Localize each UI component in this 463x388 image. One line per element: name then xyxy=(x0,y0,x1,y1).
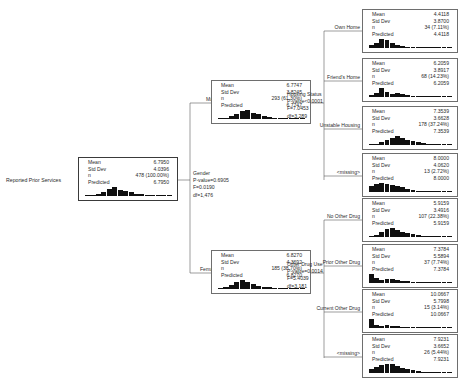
stat-key-mean: Mean xyxy=(365,200,404,207)
drug-missing-mean-value: 7.9231 xyxy=(408,336,455,343)
node-current-other-drug-stats: Mean 10.0667 Std Dev 5.7998 n 15 (3.14%)… xyxy=(365,291,455,318)
own-home-predicted-value: 4.4118 xyxy=(408,31,455,38)
unstable-housing-n-value: 178 (37.24%) xyxy=(404,121,455,128)
housing-missing-histogram xyxy=(369,183,452,192)
split-housing-status: Housing Status P-value<0.0001 F=7.0453 d… xyxy=(287,91,323,120)
node-drug-missing-stats: Mean 7.9231 Std Dev 3.6652 n 26 (5.44%) … xyxy=(365,336,455,363)
stat-key-n: n xyxy=(365,121,404,128)
friends-home-predicted-value: 6.2059 xyxy=(406,80,455,87)
stat-key-n: n xyxy=(365,349,408,356)
split-drug-pvalue: P-value=0.0014 xyxy=(287,268,323,275)
stat-key-mean: Mean xyxy=(365,246,408,253)
branch-label-current-other-drug: Current Other Drug xyxy=(302,306,360,312)
stat-key-predicted: Predicted xyxy=(214,272,255,279)
split-housing-statistic: F=7.0453 xyxy=(287,105,323,112)
node-prior-other-drug[interactable]: Mean 7.3784 Std Dev 5.5894 n 37 (7.74%) … xyxy=(362,244,458,288)
friends-home-stddev-value: 3.8917 xyxy=(406,67,455,74)
node-prior-other-drug-stats: Mean 7.3784 Std Dev 5.5894 n 37 (7.74%) … xyxy=(365,246,455,273)
node-unstable-housing-stats: Mean 7.3539 Std Dev 3.6628 n 178 (37.24%… xyxy=(365,108,455,135)
branch-label-own-home: Own Home xyxy=(326,25,360,31)
node-own-home[interactable]: Mean 4.4118 Std Dev 3.8700 n 34 (7.11%) … xyxy=(362,9,458,53)
node-own-home-stats: Mean 4.4118 Std Dev 3.8700 n 34 (7.11%) … xyxy=(365,11,455,38)
branch-label-prior-other-drug: Prior Other Drug xyxy=(310,260,360,266)
drug-missing-predicted-value: 7.9231 xyxy=(408,356,455,363)
stat-key-stddev: Std Dev xyxy=(365,162,408,169)
root-mean-value: 6.7950 xyxy=(120,159,175,166)
split-housing-pvalue: P-value<0.0001 xyxy=(287,98,323,105)
stat-key-n: n xyxy=(365,73,406,80)
root-stddev-value: 4.0396 xyxy=(120,166,175,173)
current-other-drug-mean-value: 10.0667 xyxy=(408,291,455,298)
unstable-housing-predicted-value: 7.3539 xyxy=(404,128,455,135)
prior-other-drug-predicted-value: 7.3784 xyxy=(408,266,455,273)
stat-key-mean: Mean xyxy=(365,155,408,162)
stat-key-mean: Mean xyxy=(81,159,120,166)
current-other-drug-histogram xyxy=(369,319,452,328)
root-n-value: 478 (100.00%) xyxy=(120,172,175,179)
unstable-housing-histogram xyxy=(369,136,452,145)
node-housing-missing-stats: Mean 8.0000 Std Dev 4.0620 n 13 (2.72%) … xyxy=(365,155,455,182)
root-node-stats: Mean 6.7950 Std Dev 4.0396 n 478 (100.00… xyxy=(81,159,175,186)
branch-label-drug-missing: <missing> xyxy=(326,351,360,357)
housing-missing-n-value: 13 (2.72%) xyxy=(408,168,455,175)
split-housing-df: df=3,289 xyxy=(287,113,323,120)
split-gender-pvalue: P-value=0.6905 xyxy=(193,177,229,184)
branch-label-no-other-drug: No Other Drug xyxy=(315,214,360,220)
own-home-n-value: 34 (7.11%) xyxy=(408,24,455,31)
unstable-housing-stddev-value: 3.6628 xyxy=(404,115,455,122)
current-other-drug-stddev-value: 5.7998 xyxy=(408,298,455,305)
stat-key-mean: Mean xyxy=(365,11,408,18)
node-housing-missing[interactable]: Mean 8.0000 Std Dev 4.0620 n 13 (2.72%) … xyxy=(362,153,458,197)
stat-key-n: n xyxy=(214,95,255,102)
drug-missing-n-value: 26 (5.44%) xyxy=(408,349,455,356)
housing-missing-stddev-value: 4.0620 xyxy=(408,162,455,169)
node-no-other-drug[interactable]: Mean 5.9159 Std Dev 3.4916 n 107 (22.38%… xyxy=(362,198,458,242)
stat-key-stddev: Std Dev xyxy=(365,253,408,260)
friends-home-mean-value: 6.2059 xyxy=(406,60,455,67)
stat-key-n: n xyxy=(81,172,120,179)
stat-key-stddev: Std Dev xyxy=(365,18,408,25)
target-variable-label: Reported Prior Services xyxy=(6,177,61,183)
stat-key-n: n xyxy=(365,259,408,266)
no-other-drug-stddev-value: 3.4916 xyxy=(404,207,455,214)
node-friends-home[interactable]: Mean 6.2059 Std Dev 3.8917 n 68 (14.23%)… xyxy=(362,58,458,102)
prior-other-drug-mean-value: 7.3784 xyxy=(408,246,455,253)
node-current-other-drug[interactable]: Mean 10.0667 Std Dev 5.7998 n 15 (3.14%)… xyxy=(362,289,458,333)
drug-missing-stddev-value: 3.6652 xyxy=(408,343,455,350)
friends-home-n-value: 68 (14.23%) xyxy=(406,73,455,80)
node-unstable-housing[interactable]: Mean 7.3539 Std Dev 3.6628 n 178 (37.24%… xyxy=(362,106,458,150)
stat-key-predicted: Predicted xyxy=(365,128,404,135)
root-histogram xyxy=(85,187,172,196)
stat-key-mean: Mean xyxy=(365,108,404,115)
node-drug-missing[interactable]: Mean 7.9231 Std Dev 3.6652 n 26 (5.44%) … xyxy=(362,334,458,378)
stat-key-stddev: Std Dev xyxy=(365,298,408,305)
current-other-drug-predicted-value: 10.0667 xyxy=(408,311,455,318)
own-home-stddev-value: 3.8700 xyxy=(408,18,455,25)
stat-key-predicted: Predicted xyxy=(365,356,408,363)
no-other-drug-n-value: 107 (22.38%) xyxy=(404,213,455,220)
no-other-drug-histogram xyxy=(369,228,452,237)
stat-key-predicted: Predicted xyxy=(365,266,408,273)
root-predicted-value: 6.7950 xyxy=(120,179,175,186)
stat-key-stddev: Std Dev xyxy=(365,343,408,350)
stat-key-predicted: Predicted xyxy=(365,311,408,318)
drug-missing-histogram xyxy=(369,364,452,373)
branch-label-friends-home: Friend's Home xyxy=(318,75,360,81)
stat-key-predicted: Predicted xyxy=(365,175,408,182)
branch-label-unstable-housing: Unstable Housing xyxy=(310,123,360,129)
stat-key-predicted: Predicted xyxy=(214,102,255,109)
unstable-housing-mean-value: 7.3539 xyxy=(404,108,455,115)
split-gender: Gender P-value=0.6905 F=0.0190 df=1,476 xyxy=(193,170,229,199)
split-housing-variable: Housing Status xyxy=(287,91,323,98)
root-node[interactable]: Mean 6.7950 Std Dev 4.0396 n 478 (100.00… xyxy=(78,157,178,201)
housing-missing-predicted-value: 8.0000 xyxy=(408,175,455,182)
stat-key-n: n xyxy=(365,24,408,31)
male-mean-value: 6.7747 xyxy=(255,82,308,89)
friends-home-histogram xyxy=(369,88,452,97)
node-friends-home-stats: Mean 6.2059 Std Dev 3.8917 n 68 (14.23%)… xyxy=(365,60,455,87)
split-gender-statistic: F=0.0190 xyxy=(193,184,229,191)
stat-key-stddev: Std Dev xyxy=(214,259,255,266)
no-other-drug-predicted-value: 5.9159 xyxy=(404,220,455,227)
prior-other-drug-n-value: 37 (7.74%) xyxy=(408,259,455,266)
stat-key-n: n xyxy=(365,304,408,311)
